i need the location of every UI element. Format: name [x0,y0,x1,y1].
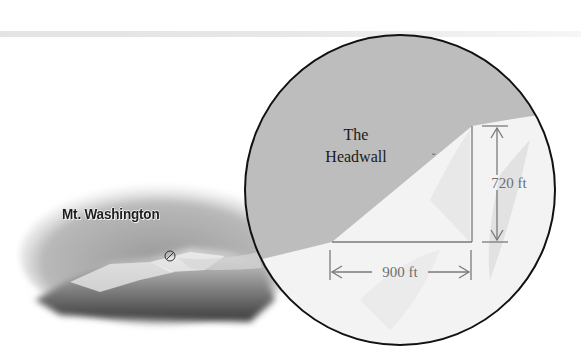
vertical-dimension-label: 720 ft [491,175,527,191]
figure: The Headwall ˘ 720 ft 900 ft Mt. Washing… [0,0,581,363]
mt-washington-label: Mt. Washington [62,205,159,222]
diagram-canvas: The Headwall ˘ 720 ft 900 ft [0,0,581,363]
headwall-label-line2: Headwall [325,148,387,165]
horizontal-dimension-label: 900 ft [382,264,418,280]
headwall-label-line1: The [344,126,369,143]
